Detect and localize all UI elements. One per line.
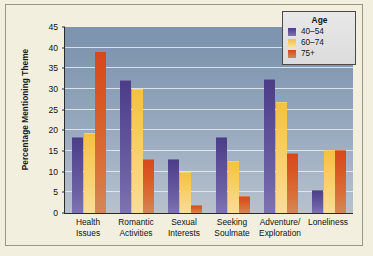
y-tick-label: 10 xyxy=(6,167,58,177)
bar-highlight xyxy=(168,159,179,160)
bar xyxy=(168,159,179,213)
bar xyxy=(264,79,275,213)
bar-group xyxy=(65,27,113,213)
bar xyxy=(95,51,106,213)
bar-highlight xyxy=(287,153,298,154)
bar xyxy=(84,133,95,213)
bar xyxy=(72,137,83,213)
bar xyxy=(228,161,239,213)
y-tick-label: 15 xyxy=(6,146,58,156)
y-tick-label: 40 xyxy=(6,43,58,53)
bar xyxy=(120,80,131,213)
bar xyxy=(335,150,346,213)
yellow-swatch xyxy=(288,39,296,47)
legend-entry: 75+ xyxy=(288,49,351,58)
legend-entry: 60–74 xyxy=(288,38,351,47)
chart-frame: Percentage Mentioning Theme 051015202530… xyxy=(5,4,363,246)
bar-highlight xyxy=(132,89,143,90)
y-tick-label: 20 xyxy=(6,125,58,135)
x-tick-label-line: Exploration xyxy=(250,228,310,239)
bar-highlight xyxy=(84,133,95,134)
y-tick-label: 35 xyxy=(6,63,58,73)
bar-group xyxy=(209,27,257,213)
bar-highlight xyxy=(324,150,335,151)
bar xyxy=(324,150,335,213)
x-axis-labels: HealthIssuesRomanticActivitiesSexualInte… xyxy=(64,217,352,251)
bar-group xyxy=(161,27,209,213)
x-tick-label: Loneliness xyxy=(298,217,358,228)
bar-highlight xyxy=(72,137,83,138)
y-tick-label: 45 xyxy=(6,22,58,32)
bar-highlight xyxy=(95,51,106,52)
bar-highlight xyxy=(228,161,239,162)
legend: Age 40–5460–7475+ xyxy=(282,11,356,65)
bar-highlight xyxy=(264,79,275,80)
bar xyxy=(312,190,323,213)
y-tick-label: 25 xyxy=(6,105,58,115)
y-tick-label: 5 xyxy=(6,187,58,197)
y-tick-label: 0 xyxy=(6,208,58,218)
bar-highlight xyxy=(276,102,287,103)
bar xyxy=(143,159,154,213)
bar-highlight xyxy=(239,196,250,197)
bar-highlight xyxy=(120,80,131,81)
legend-entry: 40–54 xyxy=(288,27,351,36)
bar-highlight xyxy=(312,190,323,191)
chart-figure: Percentage Mentioning Theme 051015202530… xyxy=(0,0,373,256)
bar xyxy=(216,137,227,213)
bar-highlight xyxy=(143,159,154,160)
bar xyxy=(180,172,191,213)
bar-group xyxy=(113,27,161,213)
y-tick-label: 30 xyxy=(6,84,58,94)
x-tick-label-line: Loneliness xyxy=(298,217,358,228)
legend-label: 40–54 xyxy=(301,27,324,36)
legend-label: 60–74 xyxy=(301,38,324,47)
bar-highlight xyxy=(216,137,227,138)
bar xyxy=(239,196,250,213)
bar xyxy=(132,89,143,213)
legend-title: Age xyxy=(288,15,351,25)
legend-entries: 40–5460–7475+ xyxy=(288,27,351,58)
bar xyxy=(287,153,298,213)
purple-swatch xyxy=(288,28,296,36)
bar-highlight xyxy=(180,172,191,173)
orange-swatch xyxy=(288,50,296,58)
bar xyxy=(191,205,202,213)
bar-highlight xyxy=(191,205,202,206)
legend-label: 75+ xyxy=(301,49,315,58)
bar-highlight xyxy=(335,150,346,151)
bar xyxy=(276,102,287,213)
